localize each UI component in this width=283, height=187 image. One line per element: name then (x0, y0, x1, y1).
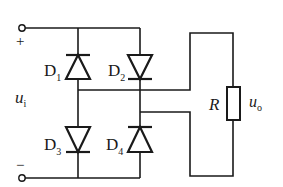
output-voltage-label: uo (249, 93, 262, 113)
bridge-rectifier-diagram: + − ui D1 D2 D3 D4 R uo (0, 0, 283, 187)
resistor-r-symbol (227, 87, 240, 120)
load-lower-wire (140, 112, 233, 176)
diode-d3-symbol (66, 126, 90, 153)
resistor-label: R (208, 95, 220, 114)
input-terminal-negative (19, 175, 25, 181)
load-upper-wire (78, 33, 233, 90)
diode-d3-label: D3 (44, 135, 61, 157)
diode-d2-label: D2 (108, 61, 125, 83)
diode-d4-symbol (128, 126, 152, 153)
plus-label: + (16, 33, 24, 49)
diode-d1-label: D1 (44, 61, 61, 83)
diode-d1-symbol (66, 54, 90, 80)
minus-label: − (16, 157, 24, 173)
diode-d2-symbol (128, 54, 152, 80)
input-voltage-label: ui (15, 88, 27, 109)
diode-d4-label: D4 (106, 135, 123, 157)
input-terminal-positive (19, 25, 25, 31)
